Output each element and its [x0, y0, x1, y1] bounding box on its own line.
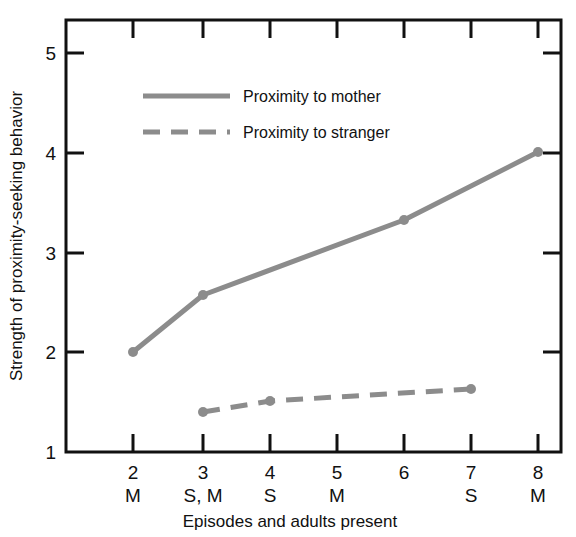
x-axis-title: Episodes and adults present — [183, 512, 398, 531]
xtick-sublabel-2: M — [125, 485, 141, 506]
plot-frame — [66, 20, 561, 452]
xtick-label-6: 6 — [399, 462, 410, 483]
series-proximity-to-mother — [128, 147, 543, 357]
chart-figure: 5 4 3 2 1 2 3 4 5 6 7 8 M S, M S M S M E… — [0, 0, 576, 537]
xtick-sublabel-5: M — [329, 485, 345, 506]
ytick-label-4: 4 — [45, 143, 56, 164]
series-line-stranger — [203, 389, 471, 412]
xtick-sublabel-7: S — [465, 485, 478, 506]
xtick-label-4: 4 — [265, 462, 276, 483]
xtick-sublabel-3: S, M — [183, 485, 222, 506]
bottom-tick-marks — [133, 434, 538, 452]
y-axis-title: Strength of proximity-seeking behavior — [7, 91, 26, 381]
data-point-mother-ep2 — [128, 347, 138, 357]
data-point-stranger-ep7 — [466, 384, 476, 394]
ytick-label-2: 2 — [45, 342, 56, 363]
xtick-label-8: 8 — [533, 462, 544, 483]
ytick-label-3: 3 — [45, 243, 56, 264]
left-tick-marks — [66, 53, 84, 352]
xtick-label-3: 3 — [198, 462, 209, 483]
xtick-sublabel-8: M — [530, 485, 546, 506]
data-point-stranger-ep3 — [198, 407, 208, 417]
xtick-label-7: 7 — [466, 462, 477, 483]
right-tick-marks — [543, 53, 561, 352]
legend-entry-mother: Proximity to mother — [143, 88, 381, 105]
legend-label-stranger: Proximity to stranger — [243, 124, 390, 141]
top-tick-marks — [133, 20, 538, 38]
legend-label-mother: Proximity to mother — [243, 88, 381, 105]
xtick-label-2: 2 — [128, 462, 139, 483]
data-point-mother-ep8 — [533, 147, 543, 157]
chart-legend: Proximity to mother Proximity to strange… — [143, 88, 390, 141]
data-point-mother-ep3 — [198, 290, 208, 300]
legend-entry-stranger: Proximity to stranger — [143, 124, 390, 141]
axis-border — [66, 20, 561, 452]
data-point-mother-ep6 — [399, 215, 409, 225]
ytick-label-1: 1 — [45, 442, 56, 463]
series-proximity-to-stranger — [198, 384, 476, 417]
line-chart: 5 4 3 2 1 2 3 4 5 6 7 8 M S, M S M S M E… — [0, 0, 576, 537]
xtick-sublabel-4: S — [264, 485, 277, 506]
data-point-stranger-ep4 — [265, 396, 275, 406]
series-line-mother — [133, 152, 538, 352]
ytick-label-5: 5 — [45, 43, 56, 64]
xtick-label-5: 5 — [332, 462, 343, 483]
